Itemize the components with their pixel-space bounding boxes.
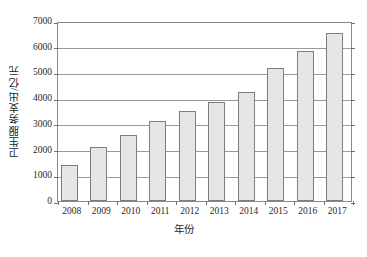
x-tick-mark [176, 201, 177, 205]
bar [149, 121, 166, 201]
y-tick-mark [54, 151, 58, 152]
bar [90, 147, 107, 201]
bar-chart: 卫生服务支出/亿元 01000200030004000500060007000 … [0, 0, 367, 257]
y-tick-mark [54, 48, 58, 49]
x-tick-label: 2017 [320, 206, 354, 217]
bar [120, 135, 137, 201]
y-tick-mark [54, 177, 58, 178]
x-tick-mark [294, 201, 295, 205]
y-tick-label: 3000 [24, 120, 52, 130]
y-tick-label: 7000 [24, 17, 52, 27]
y-tick-mark [54, 100, 58, 101]
x-tick-mark [88, 201, 89, 205]
plot-area [57, 22, 352, 202]
bar [267, 68, 284, 201]
bar [61, 165, 78, 201]
gridline [58, 48, 351, 49]
bar [326, 33, 343, 201]
y-tick-label: 6000 [24, 43, 52, 53]
x-tick-mark [206, 201, 207, 205]
y-tick-label: 4000 [24, 94, 52, 104]
x-tick-mark [235, 201, 236, 205]
y-tick-mark-right [351, 23, 355, 24]
y-tick-label: 2000 [24, 146, 52, 156]
y-tick-mark [54, 23, 58, 24]
y-tick-mark-right [351, 100, 355, 101]
y-tick-mark [54, 74, 58, 75]
x-axis-tick-labels: 2008200920102011201220132014201520162017 [57, 206, 352, 220]
x-tick-mark [353, 201, 354, 205]
bar [179, 111, 196, 201]
bar [297, 51, 314, 201]
y-tick-label: 5000 [24, 68, 52, 78]
y-tick-mark-right [351, 74, 355, 75]
x-tick-mark [265, 201, 266, 205]
y-tick-mark [54, 125, 58, 126]
y-tick-mark-right [351, 48, 355, 49]
y-tick-mark-right [351, 125, 355, 126]
y-tick-mark-right [351, 177, 355, 178]
x-tick-mark [324, 201, 325, 205]
y-tick-label: 0 [24, 197, 52, 207]
x-tick-mark [147, 201, 148, 205]
y-axis-tick-labels: 01000200030004000500060007000 [22, 0, 52, 257]
bar [208, 102, 225, 201]
x-tick-mark [58, 201, 59, 205]
x-tick-mark [117, 201, 118, 205]
y-tick-mark-right [351, 151, 355, 152]
bar [238, 92, 255, 201]
x-axis-title: 年份 [0, 224, 367, 236]
y-tick-label: 1000 [24, 171, 52, 181]
